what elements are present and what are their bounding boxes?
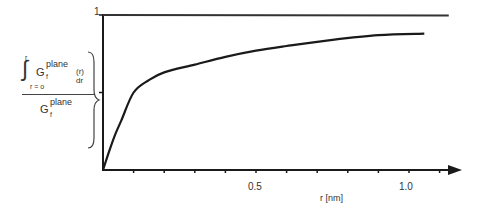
reference-line-y1 bbox=[103, 15, 449, 16]
fraction-bar bbox=[22, 94, 94, 95]
x-axis-title: r [nm] bbox=[320, 193, 343, 203]
g-symbol-denominator: G bbox=[40, 103, 49, 115]
integral-sign: ∫ bbox=[22, 58, 28, 80]
y-tick-label-1: 1 bbox=[94, 6, 100, 17]
x-tick-label-0.5: 0.5 bbox=[248, 181, 262, 192]
axes bbox=[99, 14, 462, 175]
g-subscript-denominator: f bbox=[50, 111, 52, 118]
g-superscript-denominator: plane bbox=[50, 97, 72, 107]
integral-lower-limit: r = o bbox=[30, 83, 44, 90]
x-axis-arrow-icon bbox=[448, 165, 462, 175]
data-curve bbox=[103, 34, 424, 170]
y-axis-label: ∫ r G plane f (r) dr r = o G plane f bbox=[22, 58, 92, 88]
g-subscript: f bbox=[46, 73, 48, 80]
integral-upper-limit: r bbox=[25, 54, 27, 61]
g-symbol: G bbox=[36, 66, 45, 78]
x-tick-label-1.0: 1.0 bbox=[399, 181, 413, 192]
g-superscript: plane bbox=[46, 59, 68, 69]
brace-icon bbox=[86, 50, 106, 150]
